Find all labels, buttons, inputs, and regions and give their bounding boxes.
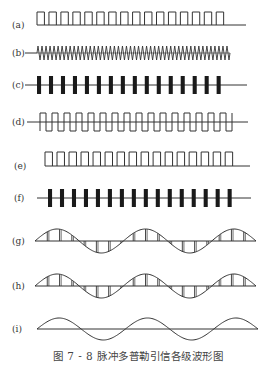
modulated-pulse (205, 76, 209, 94)
modulated-pulse (156, 189, 160, 207)
modulated-pulse (228, 189, 232, 207)
modulated-pulse (49, 76, 53, 94)
waveform-row-a: (a) (12, 12, 246, 30)
pulse-train (45, 152, 233, 166)
row-label: (d) (12, 117, 25, 127)
waveform-row-g: (g) (12, 229, 256, 253)
modulated-pulse (48, 189, 52, 207)
modulated-pulse (192, 189, 196, 207)
row-label: (h) (12, 281, 25, 291)
modulated-pulse (217, 76, 221, 94)
modulated-pulse (72, 189, 76, 207)
modulated-pulse (133, 76, 137, 94)
waveform-row-f: (f) (14, 189, 251, 207)
waveform-row-i: (i) (12, 318, 258, 340)
modulated-pulse (204, 189, 208, 207)
modulated-pulse (193, 76, 197, 94)
modulated-pulse (108, 189, 112, 207)
row-label: (g) (12, 236, 25, 246)
modulated-pulse (132, 189, 136, 207)
row-label: (f) (14, 193, 24, 203)
waveform-row-h: (h) (12, 274, 256, 298)
modulated-pulse (60, 189, 64, 207)
waveform-row-d: (d) (12, 113, 248, 131)
figure-caption: 图 7 - 8 脉冲多普勒引信各级波形图 (0, 348, 276, 363)
modulated-pulse (109, 76, 113, 94)
waveform-figure: (a)(b)(c)(d)(e)(f)(g)(h)(i) (0, 0, 276, 348)
waveform-row-c: (c) (12, 76, 247, 94)
modulated-pulse (145, 76, 149, 94)
modulated-pulse (85, 76, 89, 94)
modulated-pulse (84, 189, 88, 207)
modulated-pulse (37, 76, 41, 94)
modulated-pulse (168, 189, 172, 207)
modulated-pulse (216, 189, 220, 207)
modulated-pulse (120, 189, 124, 207)
modulated-pulse (157, 76, 161, 94)
row-label: (c) (12, 80, 24, 90)
row-label: (b) (12, 48, 25, 58)
modulated-pulse (61, 76, 65, 94)
modulated-pulse (181, 76, 185, 94)
waveform-row-e: (e) (14, 152, 250, 171)
pulse-train (37, 12, 224, 25)
row-label: (e) (14, 161, 26, 171)
modulated-pulse (96, 189, 100, 207)
modulated-pulse (121, 76, 125, 94)
waveform-row-b: (b) (12, 46, 230, 60)
modulated-pulse (97, 76, 101, 94)
modulated-pulse (169, 76, 173, 94)
row-label: (a) (12, 20, 24, 30)
row-label: (i) (12, 324, 22, 334)
modulated-pulse (73, 76, 77, 94)
modulated-pulse (180, 189, 184, 207)
modulated-pulse (144, 189, 148, 207)
